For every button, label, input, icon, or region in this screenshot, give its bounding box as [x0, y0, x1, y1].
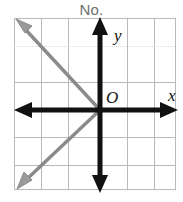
- y-axis-label: y: [112, 26, 122, 45]
- x-axis-label: x: [167, 86, 176, 105]
- origin-label: O: [106, 88, 118, 107]
- graph-screenshot: No.: [0, 0, 183, 202]
- coordinate-graph-svg: y x O: [0, 0, 183, 202]
- coordinate-graph-figure: y x O: [0, 0, 183, 202]
